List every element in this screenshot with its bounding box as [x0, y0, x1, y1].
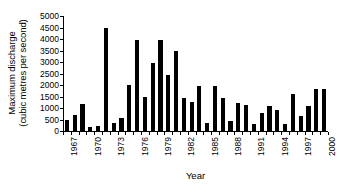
- x-tick-mark: [273, 132, 274, 135]
- x-tick-mark: [63, 132, 64, 135]
- bar: [166, 75, 170, 131]
- bar: [135, 40, 139, 131]
- bar: [252, 124, 256, 131]
- x-tick-mark: [164, 132, 165, 135]
- bar: [197, 86, 201, 131]
- bar: [112, 123, 116, 132]
- x-tick-label: 1988: [234, 137, 243, 156]
- x-axis-title: Year: [63, 170, 328, 181]
- bar: [190, 102, 194, 131]
- x-tick-label: 2000: [328, 137, 337, 156]
- bar: [267, 106, 271, 131]
- y-tick-mark: [60, 74, 63, 75]
- x-tick-mark: [172, 132, 173, 135]
- bar: [221, 98, 225, 131]
- x-tick-mark: [258, 132, 259, 135]
- x-tick-mark: [250, 132, 251, 135]
- x-tick-mark: [297, 132, 298, 135]
- y-tick-mark: [60, 28, 63, 29]
- y-axis-title: Maximum discharge (cubic metres per seco…: [6, 4, 36, 142]
- bar: [174, 51, 178, 131]
- x-tick-label: 1997: [304, 137, 313, 156]
- y-axis-title-line-1: Maximum discharge: [6, 4, 17, 142]
- bar: [283, 124, 287, 131]
- x-tick-mark: [242, 132, 243, 135]
- bar: [127, 85, 131, 131]
- x-tick-mark: [125, 132, 126, 135]
- y-tick-mark: [60, 97, 63, 98]
- x-tick-mark: [320, 132, 321, 135]
- x-tick-label: 1979: [164, 137, 173, 156]
- bar: [275, 110, 279, 131]
- x-tick-mark: [196, 132, 197, 135]
- bar: [213, 86, 217, 131]
- bar: [314, 89, 318, 131]
- x-tick-label: 1991: [257, 137, 266, 156]
- bar: [143, 97, 147, 131]
- x-tick-mark: [102, 132, 103, 135]
- bar: [151, 63, 155, 131]
- y-axis-title-line-2: (cubic metres per second): [17, 4, 28, 142]
- x-tick-mark: [234, 132, 235, 135]
- bar: [306, 106, 310, 131]
- x-tick-mark: [312, 132, 313, 135]
- y-tick-mark: [60, 16, 63, 17]
- y-tick-label: 3500: [40, 46, 59, 55]
- x-tick-mark: [110, 132, 111, 135]
- bar: [158, 40, 162, 131]
- bar: [291, 94, 295, 131]
- y-axis-line: [63, 16, 64, 132]
- plot-area: 5000450040003500300025002000150010005000…: [63, 16, 328, 131]
- y-tick-label: 2500: [40, 69, 59, 78]
- x-tick-mark: [211, 132, 212, 135]
- y-tick-label: 1500: [40, 92, 59, 101]
- x-tick-mark: [157, 132, 158, 135]
- x-tick-mark: [266, 132, 267, 135]
- bar: [73, 115, 77, 131]
- x-tick-label: 1982: [187, 137, 196, 156]
- x-tick-mark: [86, 132, 87, 135]
- x-tick-label: 1985: [211, 137, 220, 156]
- y-tick-mark: [60, 51, 63, 52]
- bar: [228, 121, 232, 131]
- bar: [104, 28, 108, 131]
- bar: [299, 116, 303, 131]
- bar: [65, 120, 69, 131]
- y-tick-mark: [60, 108, 63, 109]
- x-tick-label: 1967: [70, 137, 79, 156]
- y-tick-label: 4000: [40, 35, 59, 44]
- bar: [182, 98, 186, 131]
- y-tick-label: 1000: [40, 104, 59, 113]
- y-tick-label: 3000: [40, 58, 59, 67]
- y-tick-label: 500: [45, 115, 59, 124]
- x-tick-mark: [219, 132, 220, 135]
- bar: [260, 113, 264, 131]
- bar: [80, 104, 84, 131]
- x-tick-mark: [71, 132, 72, 135]
- x-tick-mark: [305, 132, 306, 135]
- x-tick-mark: [188, 132, 189, 135]
- bar: [88, 127, 92, 131]
- y-tick-mark: [60, 85, 63, 86]
- x-tick-mark: [203, 132, 204, 135]
- y-tick-label: 5000: [40, 12, 59, 21]
- y-tick-mark: [60, 62, 63, 63]
- bar: [322, 89, 326, 131]
- x-tick-label: 1994: [281, 137, 290, 156]
- x-tick-mark: [94, 132, 95, 135]
- x-tick-mark: [141, 132, 142, 135]
- x-tick-mark: [328, 132, 329, 135]
- y-tick-label: 4500: [40, 23, 59, 32]
- x-tick-label: 1973: [117, 137, 126, 156]
- x-tick-mark: [133, 132, 134, 135]
- bar: [205, 123, 209, 131]
- y-tick-label: 2000: [40, 81, 59, 90]
- x-tick-mark: [281, 132, 282, 135]
- bar: [236, 103, 240, 131]
- x-tick-mark: [180, 132, 181, 135]
- bar: [244, 105, 248, 131]
- y-tick-mark: [60, 39, 63, 40]
- bar: [119, 118, 123, 131]
- x-tick-mark: [118, 132, 119, 135]
